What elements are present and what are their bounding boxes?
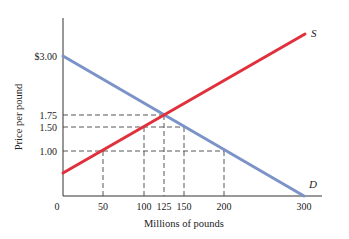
x-tick-125: 125 [157,201,172,212]
x-tick-150: 150 [177,201,192,212]
x-tick-0: 0 [55,201,60,212]
y-tick-3-00: $3.00 [35,51,58,62]
y-tick-1-50: 1.50 [40,122,58,133]
y-tick-1-75: 1.75 [40,110,58,121]
x-tick-300: 300 [297,201,312,212]
supply-demand-chart: S D $3.00 1.75 1.50 1.00 0 50 100 125 15… [0,0,349,239]
y-tick-1-00: 1.00 [40,146,58,157]
x-tick-200: 200 [217,201,232,212]
y-axis-title: Price per pound [13,83,24,150]
demand-curve [63,56,304,196]
demand-label: D [308,178,317,190]
x-tick-50: 50 [98,201,108,212]
x-tick-100: 100 [137,201,152,212]
x-axis-title: Millions of pounds [144,218,224,229]
supply-label: S [311,27,317,39]
